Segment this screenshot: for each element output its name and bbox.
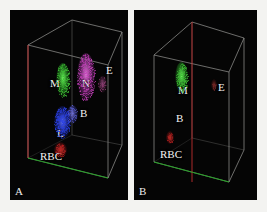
scatter-point (67, 80, 68, 81)
scatter-point (60, 77, 61, 78)
scatter-point (83, 94, 84, 95)
scatter-point (64, 147, 65, 148)
cluster-label-B: B (176, 113, 183, 124)
scatter-point (69, 72, 70, 73)
scatter-point (177, 81, 178, 82)
scatter-point (56, 125, 57, 126)
scatter-point (68, 77, 69, 78)
scatter-point (58, 128, 59, 129)
scatter-point (86, 75, 87, 76)
scatter-point (65, 111, 66, 112)
scatter-point (58, 80, 59, 81)
scatter-point (79, 68, 80, 69)
scatter-point (93, 92, 94, 93)
scatter-point (68, 74, 69, 75)
scatter-point (83, 86, 84, 87)
scatter-point (95, 81, 96, 82)
scatter-point (70, 107, 71, 108)
scatter-point (57, 152, 58, 153)
scatter-point (71, 115, 72, 116)
scatter-point (62, 150, 63, 151)
scatter-point (56, 119, 57, 120)
scatter-point (63, 86, 64, 87)
scatter-point (169, 138, 170, 139)
scatter-point (79, 78, 80, 79)
scatter-point (80, 76, 81, 77)
panel-b-id: B (139, 185, 146, 197)
scatter-point (70, 125, 71, 126)
scatter-point (59, 144, 60, 145)
scatter-point (62, 97, 63, 98)
scatter-point (78, 76, 79, 77)
scatter-point (104, 85, 105, 86)
scatter-point (78, 80, 79, 81)
scatter-point (170, 136, 171, 137)
scatter-point (69, 88, 70, 89)
scatter-point (186, 89, 187, 90)
scatter-point (178, 76, 179, 77)
scatter-point (59, 86, 60, 87)
scatter-point (83, 91, 84, 92)
cluster-label-E: E (218, 82, 225, 93)
scatter-point (183, 83, 184, 84)
scatter-point (62, 112, 63, 113)
scatter-point (102, 86, 103, 87)
scatter-point (59, 134, 60, 135)
scatter-point (61, 94, 62, 95)
scatter-point (84, 69, 85, 70)
scatter-point (63, 131, 64, 132)
scatter-point (69, 122, 70, 123)
scatter-point (64, 117, 65, 118)
scatter-point (62, 89, 63, 90)
scatter-point (70, 120, 71, 121)
scatter-point (79, 64, 80, 65)
scatter-point (84, 90, 85, 91)
scatter-point (57, 123, 58, 124)
scatter-point (82, 96, 83, 97)
scatter-point (59, 111, 60, 112)
scatter-point (61, 153, 62, 154)
scatter-point (186, 88, 187, 89)
scatter-point (65, 115, 66, 116)
scatter-point (63, 65, 64, 66)
scatter-point (62, 74, 63, 75)
scatter-point (64, 94, 65, 95)
scatter-point (87, 100, 88, 101)
scatter-point (61, 96, 62, 97)
scatter-point (99, 79, 100, 80)
scatter-point (184, 77, 185, 78)
scatter-point (60, 133, 61, 134)
scatter-point (69, 128, 70, 129)
scatter-point (76, 109, 77, 110)
scatter-point (62, 76, 63, 77)
scatter-point (55, 125, 56, 126)
scatter-point (68, 115, 69, 116)
scatter-point (99, 87, 100, 88)
scatter-point (86, 72, 87, 73)
scatter-point (81, 69, 82, 70)
scatter-point (88, 79, 89, 80)
scatter-point (92, 67, 93, 68)
scatter-point (80, 71, 81, 72)
scatter-point (62, 82, 63, 83)
scatter-point (80, 80, 81, 81)
scatter-point (188, 76, 189, 77)
panel-b: M E B RBC B (134, 10, 257, 200)
scatter-point (69, 71, 70, 72)
axis-x (154, 162, 229, 182)
scatter-point (180, 85, 181, 86)
panel-a: M N E B L RBC A (10, 10, 128, 200)
figure-canvas: M N E B L RBC A M E B RBC B (0, 0, 267, 212)
scatter-point (70, 81, 71, 82)
panel-a-id: A (15, 185, 23, 197)
scatter-point (65, 69, 66, 70)
scatter-point (72, 111, 73, 112)
cluster-label-B: B (80, 108, 87, 119)
scatter-point (76, 116, 77, 117)
scatter-point (63, 145, 64, 146)
scatter-point (71, 108, 72, 109)
scatter-point (184, 69, 185, 70)
scatter-point (94, 76, 95, 77)
scatter-point (104, 78, 105, 79)
scatter-point (90, 61, 91, 62)
